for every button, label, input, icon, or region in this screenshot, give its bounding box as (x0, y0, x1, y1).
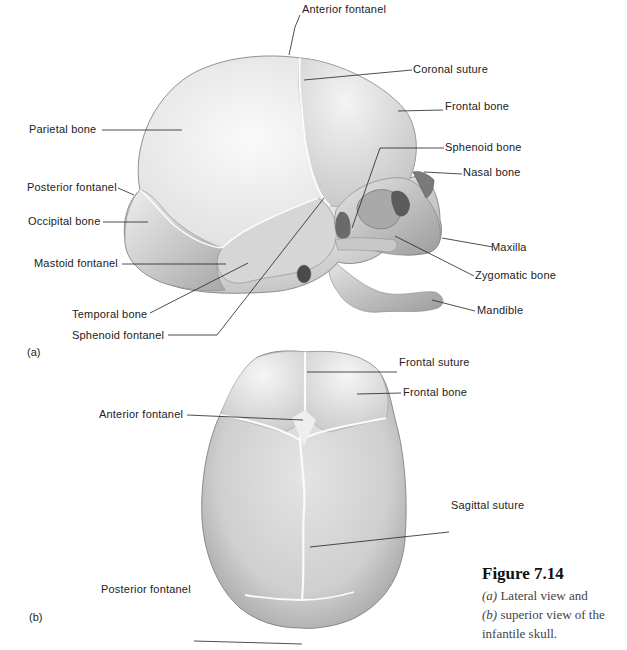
label-sagittal-suture: Sagittal suture (451, 499, 524, 512)
label-frontal-suture: Frontal suture (399, 356, 470, 369)
figure-number: Figure 7.14 (482, 564, 564, 584)
label-sphenoid-fontanel: Sphenoid fontanel (72, 329, 164, 342)
label-coronal-suture: Coronal suture (413, 63, 488, 76)
label-mandible: Mandible (477, 304, 523, 317)
label-posterior-fontanel-a: Posterior fontanel (27, 181, 117, 194)
panel-b-marker: (b) (29, 611, 42, 623)
label-frontal-bone-a: Frontal bone (445, 100, 509, 113)
caption-b-marker: (b) (482, 607, 497, 622)
label-mastoid-fontanel: Mastoid fontanel (34, 257, 118, 270)
figure-caption: (a) Lateral view and (b) superior view o… (482, 586, 622, 643)
label-zygomatic-bone: Zygomatic bone (475, 269, 556, 282)
caption-a-marker: (a) (482, 588, 497, 603)
label-anterior-fontanel-a: Anterior fontanel (302, 3, 386, 16)
label-frontal-bone-b: Frontal bone (403, 386, 467, 399)
label-parietal-bone: Parietal bone (29, 123, 96, 136)
label-nasal-bone: Nasal bone (463, 166, 521, 179)
label-anterior-fontanel-b: Anterior fontanel (99, 408, 183, 421)
skull-illustrations (0, 0, 627, 650)
label-sphenoid-bone: Sphenoid bone (445, 141, 522, 154)
figure-root: Anterior fontanel Coronal suture Frontal… (0, 0, 627, 650)
label-temporal-bone: Temporal bone (72, 308, 147, 321)
label-occipital-bone: Occipital bone (28, 215, 101, 228)
caption-b-text: superior view of the infantile skull. (482, 607, 605, 641)
label-maxilla: Maxilla (491, 241, 527, 254)
superior-skull-drawing (202, 351, 406, 629)
lateral-skull-drawing (124, 56, 443, 312)
caption-a-text: Lateral view and (497, 588, 588, 603)
panel-a-marker: (a) (27, 346, 40, 358)
label-posterior-fontanel-b: Posterior fontanel (101, 583, 191, 596)
